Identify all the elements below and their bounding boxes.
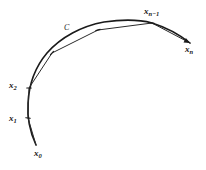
partition-tick-group (26, 23, 154, 119)
point-label-x0-base: x (34, 148, 39, 158)
point-label-xn-1-subscript: n−1 (149, 10, 160, 17)
point-label-x1-base: x (9, 113, 14, 123)
point-label-xn-base: x (185, 44, 190, 54)
diagram-canvas (0, 0, 206, 170)
point-label-xn-subscript: n (190, 48, 194, 55)
tick-x1 (26, 118, 30, 119)
point-label-xn-1: xn−1 (144, 7, 159, 16)
point-label-xn: xn (185, 45, 193, 54)
point-label-xn-1-base: x (144, 6, 149, 16)
point-label-x2: x2 (9, 81, 17, 90)
curve-label-c: C (64, 24, 69, 32)
point-label-x2-subscript: 2 (14, 84, 17, 91)
point-label-x2-base: x (9, 80, 14, 90)
curve-c-path (28, 20, 190, 145)
point-label-x0-subscript: 0 (39, 152, 42, 159)
inscribed-chord-polyline (28, 23, 190, 145)
point-label-x1: x1 (9, 114, 17, 123)
tick-xj (96, 29, 100, 30)
figure-arc-length-diagram: C x0x1x2xn−1xn (0, 0, 206, 170)
point-label-x0: x0 (34, 149, 42, 158)
point-label-x1-subscript: 1 (14, 117, 17, 124)
